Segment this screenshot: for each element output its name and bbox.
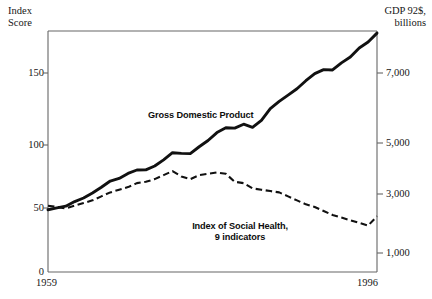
plot-frame — [48, 31, 377, 272]
chart-plot — [0, 0, 432, 299]
right-axis-ticks — [377, 73, 383, 253]
series-line-gdp — [48, 33, 377, 210]
series-line-social-health — [48, 171, 377, 225]
left-axis-ticks — [43, 73, 48, 208]
chart-container: Index Score GDP 92$, billions 150 100 50… — [0, 0, 432, 299]
